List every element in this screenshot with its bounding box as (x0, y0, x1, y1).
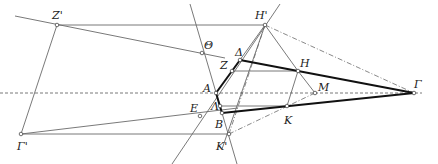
label-z-prime: Z' (52, 10, 63, 21)
label-h-prime: H' (255, 10, 268, 21)
label-lambda: Λ (211, 101, 219, 112)
point-marker (313, 91, 317, 95)
label-h: H (300, 58, 310, 69)
line-segment (15, 16, 225, 58)
label-gamma: Γ (414, 79, 422, 90)
label-z: Z (220, 60, 228, 71)
line-segment (287, 71, 298, 106)
label-delta: Δ (235, 47, 243, 58)
point-marker (285, 104, 289, 108)
point-marker (263, 23, 267, 27)
label-e: E (190, 103, 198, 114)
line-segment (265, 25, 414, 93)
point-marker (230, 69, 234, 73)
dash-dot-lines (229, 25, 414, 134)
label-k: K (284, 115, 292, 126)
label-a: A (203, 83, 211, 94)
line-segment (265, 25, 298, 71)
line-segment (21, 25, 57, 134)
main-figure-lines (216, 60, 414, 113)
point-marker (198, 114, 202, 118)
label-b: B (215, 119, 223, 130)
point-marker (19, 132, 23, 136)
line-segment (229, 93, 315, 134)
construction-lines (15, 4, 315, 164)
line-segment (229, 25, 265, 134)
point-marker (227, 132, 231, 136)
line-segment (21, 108, 238, 134)
label-gamma-prime: Γ' (17, 141, 28, 152)
label-theta: Θ (204, 40, 213, 51)
point-marker (55, 23, 59, 27)
point-marker (412, 91, 416, 95)
line-segment (222, 93, 414, 113)
point-marker (220, 111, 224, 115)
label-k-prime: K' (216, 141, 227, 152)
label-m: M (318, 82, 329, 93)
point-marker (214, 91, 218, 95)
line-segment (190, 4, 237, 164)
line-segment (222, 25, 265, 149)
